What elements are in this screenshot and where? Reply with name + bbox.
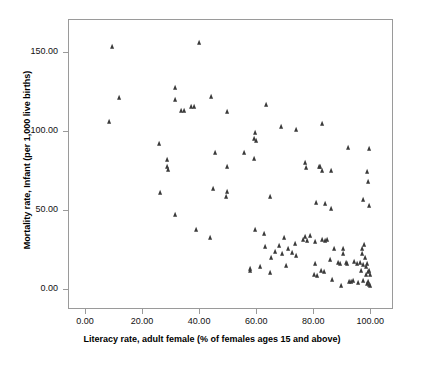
- data-point: [253, 156, 257, 161]
- data-point: [325, 237, 329, 242]
- data-point: [359, 267, 363, 272]
- data-point: [329, 206, 333, 211]
- data-point: [315, 273, 319, 278]
- data-point: [243, 150, 247, 155]
- scatter-chart: 0.0020.0040.0060.0080.00100.00 0.0050.00…: [0, 0, 424, 367]
- x-axis-title: Literacy rate, adult female (% of female…: [0, 334, 424, 344]
- data-point: [269, 255, 273, 260]
- data-point: [182, 108, 186, 113]
- data-point: [323, 201, 327, 206]
- data-point: [332, 246, 336, 251]
- data-point: [253, 130, 257, 135]
- data-point: [338, 260, 342, 265]
- data-point: [368, 282, 372, 287]
- data-point: [314, 200, 318, 205]
- data-point: [264, 102, 268, 107]
- data-point: [208, 235, 212, 240]
- data-point: [341, 251, 345, 256]
- data-point: [166, 166, 170, 171]
- data-point: [254, 138, 258, 143]
- data-point: [361, 196, 365, 201]
- data-point: [290, 250, 294, 255]
- data-point: [194, 226, 198, 231]
- data-point: [368, 271, 372, 276]
- y-tick: [63, 52, 68, 53]
- data-point: [293, 240, 297, 245]
- data-point: [211, 186, 215, 191]
- data-point: [320, 121, 324, 126]
- y-tick: [63, 131, 68, 132]
- x-tick: [313, 309, 314, 314]
- x-tick: [256, 309, 257, 314]
- data-point: [197, 40, 201, 45]
- data-point: [157, 140, 161, 145]
- y-axis-title: Mortality rate, Infant (per 1,000 live b…: [22, 25, 32, 295]
- data-point: [110, 43, 114, 48]
- data-point: [282, 234, 286, 239]
- data-point: [356, 280, 360, 285]
- x-tick-label: 100.00: [340, 316, 400, 326]
- data-point: [192, 104, 196, 109]
- data-point: [294, 127, 298, 132]
- data-point: [253, 226, 257, 231]
- x-tick-label: 60.00: [226, 316, 286, 326]
- data-point: [158, 190, 162, 195]
- data-point: [268, 194, 272, 199]
- data-point: [107, 118, 111, 123]
- data-point: [365, 169, 369, 174]
- data-point: [308, 233, 312, 238]
- data-point: [173, 97, 177, 102]
- data-point: [280, 251, 284, 256]
- data-point: [259, 264, 263, 269]
- data-point: [367, 203, 371, 208]
- data-point: [165, 157, 169, 162]
- data-points-layer: [69, 20, 392, 308]
- data-point: [248, 266, 252, 271]
- data-point: [339, 282, 343, 287]
- data-point: [225, 109, 229, 114]
- data-point: [269, 270, 273, 275]
- data-point: [173, 84, 177, 89]
- data-point: [313, 261, 317, 266]
- x-tick-label: 80.00: [283, 316, 343, 326]
- y-tick: [63, 210, 68, 211]
- x-tick: [370, 309, 371, 314]
- data-point: [341, 245, 345, 250]
- data-point: [224, 194, 228, 199]
- x-tick-label: 0.00: [55, 316, 115, 326]
- data-point: [365, 260, 369, 265]
- x-tick-label: 40.00: [169, 316, 229, 326]
- data-point: [322, 269, 326, 274]
- data-point: [313, 239, 317, 244]
- x-tick: [142, 309, 143, 314]
- data-point: [263, 230, 267, 235]
- data-point: [304, 165, 308, 170]
- y-tick: [63, 289, 68, 290]
- data-point: [363, 242, 367, 247]
- data-point: [367, 146, 371, 151]
- data-point: [209, 94, 213, 99]
- x-tick-label: 20.00: [112, 316, 172, 326]
- data-point: [277, 243, 281, 248]
- data-point: [213, 150, 217, 155]
- data-point: [173, 211, 177, 216]
- data-point: [346, 144, 350, 149]
- data-point: [366, 179, 370, 184]
- plot-area: [68, 19, 393, 309]
- data-point: [306, 237, 310, 242]
- data-point: [225, 163, 229, 168]
- x-tick: [85, 309, 86, 314]
- x-tick: [199, 309, 200, 314]
- data-point: [363, 255, 367, 260]
- data-point: [273, 248, 277, 253]
- data-point: [320, 167, 324, 172]
- data-point: [263, 244, 267, 249]
- data-point: [294, 252, 298, 257]
- data-point: [284, 263, 288, 268]
- data-point: [345, 261, 349, 266]
- data-point: [117, 95, 121, 100]
- data-point: [328, 256, 332, 261]
- data-point: [330, 277, 334, 282]
- data-point: [279, 124, 283, 129]
- data-point: [329, 168, 333, 173]
